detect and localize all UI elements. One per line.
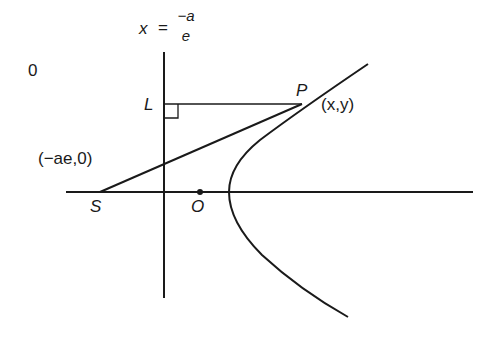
- point-L-label: L: [144, 96, 153, 113]
- hyperbola-diagram: 0 x = −a e L P (x,y) S (−ae,0) O: [0, 0, 496, 338]
- directrix-x: x: [139, 20, 148, 37]
- right-angle-marker: [164, 104, 178, 118]
- point-P-coords: (x,y): [321, 96, 354, 113]
- point-S-label: S: [90, 198, 101, 215]
- origin-point: [197, 189, 203, 195]
- point-P-label: P: [296, 82, 307, 99]
- corner-label: 0: [28, 62, 37, 79]
- directrix-equals: =: [158, 19, 168, 36]
- focal-line-SP: [100, 104, 302, 192]
- point-S-coords: (−ae,0): [38, 150, 92, 167]
- directrix-denominator: e: [174, 28, 198, 43]
- diagram-canvas: [0, 0, 496, 338]
- point-O-label: O: [191, 198, 204, 215]
- directrix-numerator: −a: [174, 8, 198, 23]
